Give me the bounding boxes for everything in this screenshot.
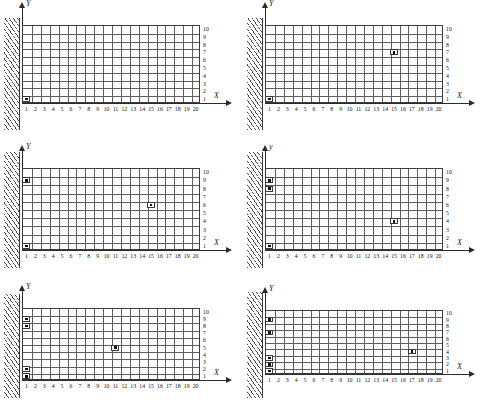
grid-line-vertical: [174, 169, 175, 249]
y-tick-label: 10: [446, 310, 452, 316]
grid-line-vertical: [32, 26, 33, 102]
grid-line-vertical: [121, 169, 122, 249]
node-marker-dot: [268, 179, 271, 182]
grid-line-vertical: [408, 311, 409, 373]
y-tick-label: 8: [446, 42, 449, 48]
grid-line-horizontal: [23, 374, 199, 375]
x-axis-arrow: [469, 100, 475, 106]
grid-line-vertical: [382, 26, 383, 102]
mesh-grid: [265, 310, 443, 374]
grid-line-vertical: [275, 169, 276, 249]
grid-line-vertical: [165, 26, 166, 102]
y-tick-label: 3: [203, 359, 206, 365]
grid-line-vertical: [174, 309, 175, 379]
grid-line-vertical: [68, 309, 69, 379]
x-tick-label: 20: [189, 383, 203, 389]
y-tick-label: 4: [203, 73, 206, 79]
grid-line-vertical: [94, 26, 95, 102]
y-tick-label: 5: [446, 65, 449, 71]
panel-inner: YXo1234567891011121314151617181920123456…: [0, 0, 243, 135]
x-axis-label: X: [214, 92, 219, 100]
x-axis-label: X: [214, 239, 219, 247]
y-tick-label: 3: [203, 81, 206, 87]
node-marker: [265, 243, 273, 249]
x-tick-label: 20: [189, 253, 203, 259]
y-tick-label: 7: [446, 329, 449, 335]
grid-line-horizontal: [266, 337, 442, 338]
grid-line-horizontal: [266, 34, 442, 35]
grid-line-vertical: [41, 26, 42, 102]
node-marker: [147, 202, 155, 208]
figure-root: YXo1234567891011121314151617181920123456…: [0, 0, 486, 403]
grid-line-horizontal: [23, 73, 199, 74]
grid-line-horizontal: [23, 331, 199, 332]
y-tick-label: 5: [203, 65, 206, 71]
grid-line-horizontal: [266, 42, 442, 43]
grid-line-vertical: [400, 311, 401, 373]
grid-line-vertical: [59, 309, 60, 379]
node-marker-dot: [268, 370, 271, 373]
grid-line-horizontal: [266, 317, 442, 318]
panel-5: YXo1234567891011121314151617181920123456…: [0, 277, 243, 403]
grid-line-horizontal: [23, 338, 199, 339]
grid-line-vertical: [41, 169, 42, 249]
grid-line-horizontal: [266, 226, 442, 227]
y-tick-label: 5: [203, 345, 206, 351]
y-tick-label: 9: [446, 34, 449, 40]
grid-line-vertical: [426, 26, 427, 102]
y-axis-label: Y: [26, 143, 30, 151]
grid-line-vertical: [382, 169, 383, 249]
grid-line-horizontal: [23, 81, 199, 82]
panel-inner: yXo1234567891011121314151617181920123456…: [243, 137, 486, 277]
x-tick-label: 20: [189, 106, 203, 112]
grid-line-horizontal: [266, 330, 442, 331]
node-marker: [22, 243, 30, 249]
grid-line-vertical: [293, 169, 294, 249]
node-marker-dot: [393, 51, 396, 54]
grid-line-vertical: [94, 169, 95, 249]
grid-line-vertical: [165, 169, 166, 249]
grid-line-vertical: [192, 169, 193, 249]
y-axis-arrow: [262, 2, 268, 8]
grid-line-vertical: [130, 309, 131, 379]
x-axis-label: X: [214, 369, 219, 377]
node-marker: [408, 349, 416, 354]
grid-line-horizontal: [23, 235, 199, 236]
grid-line-vertical: [165, 309, 166, 379]
y-tick-label: 10: [203, 26, 209, 32]
grid-line-vertical: [139, 309, 140, 379]
node-marker: [265, 96, 273, 102]
grid-line-horizontal: [266, 185, 442, 186]
node-marker-dot: [393, 220, 396, 223]
y-tick-label: 2: [446, 88, 449, 94]
grid-line-horizontal: [23, 323, 199, 324]
grid-line-vertical: [32, 169, 33, 249]
y-tick-label: 10: [446, 26, 452, 32]
grid-line-vertical: [59, 169, 60, 249]
node-marker: [265, 317, 273, 322]
grid-line-vertical: [408, 26, 409, 102]
grid-line-vertical: [435, 169, 436, 249]
panel-inner: YXo1234567891011121314151617181920123456…: [243, 0, 486, 135]
grid-line-vertical: [112, 169, 113, 249]
grid-line-vertical: [284, 26, 285, 102]
grid-line-horizontal: [266, 96, 442, 97]
grid-line-horizontal: [23, 96, 199, 97]
y-tick-label: 3: [446, 355, 449, 361]
grid-line-horizontal: [23, 210, 199, 211]
node-marker: [111, 345, 119, 351]
grid-line-vertical: [275, 26, 276, 102]
node-marker-dot: [25, 325, 28, 328]
hatched-wall: [247, 18, 262, 130]
y-tick-label: 7: [203, 49, 206, 55]
grid-line-vertical: [293, 26, 294, 102]
node-marker: [22, 177, 30, 183]
y-tick-label: 2: [446, 361, 449, 367]
node-marker: [265, 355, 273, 360]
grid-line-horizontal: [266, 49, 442, 50]
grid-line-vertical: [391, 26, 392, 102]
grid-line-vertical: [346, 311, 347, 373]
y-tick-label: 1: [203, 373, 206, 379]
grid-line-horizontal: [23, 65, 199, 66]
y-tick-label: 5: [203, 210, 206, 216]
